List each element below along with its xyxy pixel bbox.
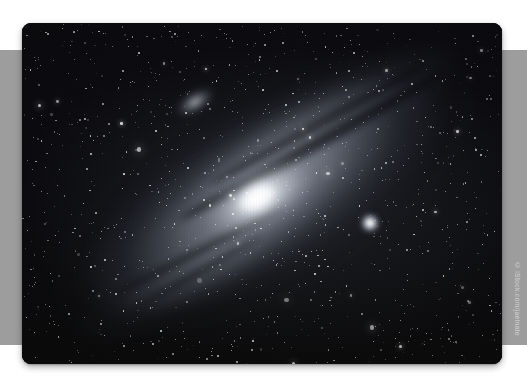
star xyxy=(138,52,140,54)
star xyxy=(484,233,486,235)
star xyxy=(482,335,483,336)
star xyxy=(316,209,317,210)
star xyxy=(97,136,98,137)
star xyxy=(187,124,188,125)
star xyxy=(166,113,168,115)
star xyxy=(44,251,45,252)
star xyxy=(102,103,104,105)
star xyxy=(485,156,486,157)
star xyxy=(286,185,287,186)
star xyxy=(247,222,248,223)
star xyxy=(459,362,460,363)
star xyxy=(121,218,122,219)
star xyxy=(71,124,73,126)
star xyxy=(445,79,446,80)
star xyxy=(70,318,71,319)
star xyxy=(315,82,316,83)
star xyxy=(403,165,404,166)
star xyxy=(317,255,318,256)
star xyxy=(350,51,351,52)
star xyxy=(240,337,241,338)
star xyxy=(53,60,54,61)
star xyxy=(224,243,225,244)
star xyxy=(136,111,137,112)
star xyxy=(289,292,290,293)
star xyxy=(322,305,323,306)
star xyxy=(104,227,105,228)
star xyxy=(395,205,396,206)
star xyxy=(33,268,34,269)
star xyxy=(92,87,93,88)
star xyxy=(53,321,54,322)
star xyxy=(163,62,166,65)
star xyxy=(158,340,159,341)
star xyxy=(409,39,410,40)
star xyxy=(446,241,447,242)
star xyxy=(57,185,58,186)
star xyxy=(303,216,305,218)
star xyxy=(361,79,362,80)
star xyxy=(62,45,63,46)
star xyxy=(473,322,474,323)
star xyxy=(164,227,165,228)
star xyxy=(212,82,213,83)
star xyxy=(236,326,237,327)
star xyxy=(161,178,162,179)
star xyxy=(102,153,103,154)
star xyxy=(207,103,208,104)
star xyxy=(179,271,180,272)
star xyxy=(316,223,317,224)
star xyxy=(165,288,166,289)
star xyxy=(152,307,153,308)
star xyxy=(342,86,343,87)
star xyxy=(184,79,185,80)
star xyxy=(118,359,119,360)
star xyxy=(223,205,224,206)
star xyxy=(253,72,254,73)
star xyxy=(320,234,321,235)
star xyxy=(237,346,238,347)
star xyxy=(413,234,414,235)
star xyxy=(413,107,414,108)
star xyxy=(474,192,475,193)
star xyxy=(248,146,249,147)
star xyxy=(30,269,32,271)
star xyxy=(98,332,99,333)
star xyxy=(130,174,131,175)
star xyxy=(343,229,344,230)
star xyxy=(263,318,264,319)
star xyxy=(285,104,287,106)
star xyxy=(309,265,311,267)
star xyxy=(137,46,138,47)
star xyxy=(57,133,58,134)
star xyxy=(155,73,156,74)
star xyxy=(25,69,26,70)
star xyxy=(498,114,499,115)
star xyxy=(422,209,423,210)
star xyxy=(282,42,283,43)
star xyxy=(49,323,50,324)
star xyxy=(359,205,361,207)
star xyxy=(229,194,232,197)
star xyxy=(367,66,368,67)
star xyxy=(448,163,449,164)
star xyxy=(459,83,460,84)
star xyxy=(397,171,398,172)
star xyxy=(294,236,295,237)
star xyxy=(168,258,169,259)
star xyxy=(54,324,55,325)
star xyxy=(242,213,243,214)
star xyxy=(426,69,427,70)
star xyxy=(353,77,354,78)
star xyxy=(238,81,239,82)
star xyxy=(161,36,162,37)
star xyxy=(151,191,152,192)
star xyxy=(285,113,286,114)
star xyxy=(425,212,427,214)
star xyxy=(183,331,184,332)
star xyxy=(71,101,72,102)
star xyxy=(348,96,350,98)
star xyxy=(101,75,102,76)
star xyxy=(342,347,343,348)
star xyxy=(418,189,419,190)
